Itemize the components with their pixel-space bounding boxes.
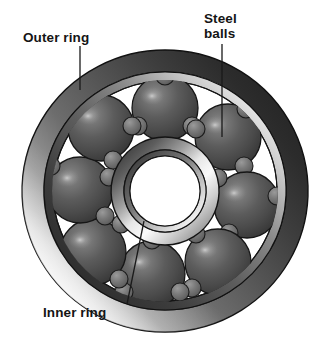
bearing-diagram-stage: Outer ring Steel balls Inner ring: [0, 0, 326, 346]
callout-label-inner-ring: Inner ring: [43, 305, 106, 320]
callout-label-outer-ring: Outer ring: [23, 30, 89, 45]
inner-ring-bore: [130, 156, 200, 226]
callout-label-steel-balls: Steel balls: [204, 11, 237, 41]
inner-ring-group: [111, 137, 219, 245]
ball-bearing-illustration: [0, 0, 326, 346]
